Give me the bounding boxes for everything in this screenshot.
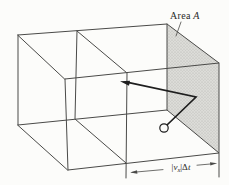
trajectory-arrowhead-icon <box>120 81 130 86</box>
molecule-circle <box>160 124 168 132</box>
gas-box-diagram: AreaA |vx|Δt <box>0 0 229 185</box>
kinetic-theory-figure: AreaA |vx|Δt <box>0 0 229 185</box>
dimension-right-arrowhead-icon <box>210 162 217 165</box>
area-label-symbol: A <box>192 10 200 21</box>
area-label: AreaA <box>170 10 200 21</box>
distance-label: |vx|Δt <box>172 162 191 173</box>
distance-t-symbol: t <box>188 162 191 172</box>
dimension-right-shaft <box>197 164 211 165</box>
slab-divider <box>75 31 127 178</box>
dimension-left-arrowhead-icon <box>130 170 137 174</box>
area-label-word: Area <box>170 10 191 21</box>
